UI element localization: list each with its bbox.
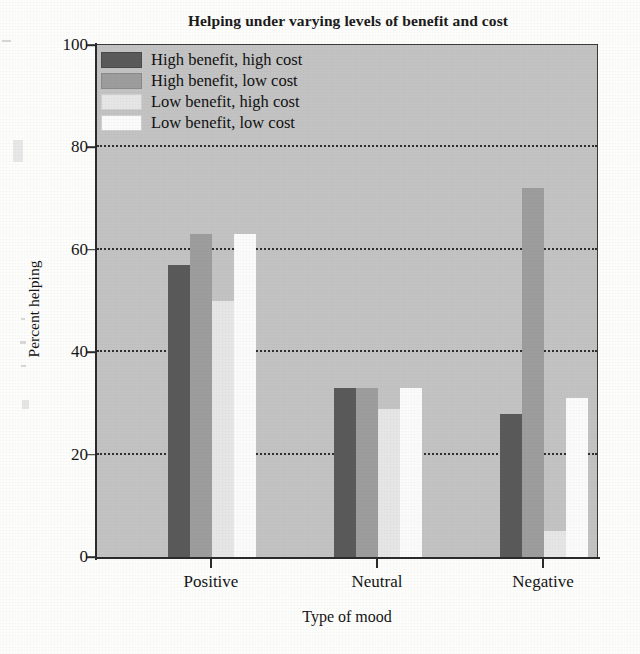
x-tick-mark — [376, 558, 378, 568]
bar-neutral-series-3 — [400, 388, 422, 557]
y-tick-mark — [87, 249, 95, 251]
y-axis-title: Percent helping — [25, 229, 43, 389]
x-tick-mark — [210, 558, 212, 568]
y-tick-label: 20 — [42, 445, 88, 465]
x-axis-title: Type of mood — [96, 608, 598, 626]
y-tick-label: 40 — [42, 342, 88, 362]
legend-swatch-high-benefit-high-cost — [101, 52, 142, 68]
bar-negative-series-2 — [544, 531, 566, 557]
x-tick-label-negative: Negative — [512, 572, 573, 592]
y-tick-label: 100 — [42, 35, 88, 55]
bar-negative-series-1 — [522, 188, 544, 557]
legend-label: Low benefit, low cost — [151, 113, 295, 133]
chart-title: Helping under varying levels of benefit … — [96, 12, 600, 30]
y-tick-mark — [87, 147, 95, 149]
x-axis-line — [95, 557, 600, 559]
bar-negative-series-3 — [566, 398, 588, 557]
gridline — [97, 145, 597, 147]
legend-swatch-low-benefit-low-cost — [101, 115, 142, 131]
bar-chart-figure: Helping under varying levels of benefit … — [0, 0, 640, 654]
y-tick-mark — [87, 351, 95, 353]
legend-item: Low benefit, high cost — [101, 93, 302, 111]
y-tick-label: 60 — [42, 240, 88, 260]
bar-neutral-series-1 — [356, 388, 378, 557]
legend-swatch-high-benefit-low-cost — [101, 73, 142, 89]
bar-neutral-series-0 — [334, 388, 356, 557]
bar-negative-series-0 — [500, 414, 522, 557]
y-axis-ticks: 020406080100 — [0, 0, 88, 654]
legend-label: High benefit, low cost — [151, 71, 298, 91]
bar-positive-series-3 — [234, 234, 256, 557]
legend-label: Low benefit, high cost — [151, 92, 299, 112]
legend-item: High benefit, high cost — [101, 51, 302, 69]
y-tick-label: 80 — [42, 137, 88, 157]
y-tick-label: 0 — [42, 547, 88, 567]
y-tick-mark — [87, 454, 95, 456]
bar-neutral-series-2 — [378, 409, 400, 557]
bar-positive-series-1 — [190, 234, 212, 557]
legend-label: High benefit, high cost — [151, 50, 302, 70]
legend-item: High benefit, low cost — [101, 72, 302, 90]
y-tick-mark — [87, 44, 95, 46]
x-tick-label-neutral: Neutral — [352, 572, 403, 592]
legend-item: Low benefit, low cost — [101, 114, 302, 132]
bar-positive-series-2 — [212, 301, 234, 557]
x-tick-label-positive: Positive — [184, 572, 239, 592]
chart-legend: High benefit, high costHigh benefit, low… — [101, 51, 302, 132]
legend-swatch-low-benefit-high-cost — [101, 94, 142, 110]
y-tick-mark — [87, 556, 95, 558]
y-axis-line — [95, 43, 97, 560]
bar-positive-series-0 — [168, 265, 190, 557]
x-tick-mark — [542, 558, 544, 568]
